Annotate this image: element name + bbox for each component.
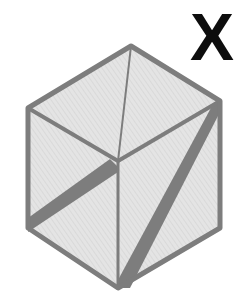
figure-label: X — [186, 6, 238, 68]
cube-diagram: X — [0, 0, 241, 299]
